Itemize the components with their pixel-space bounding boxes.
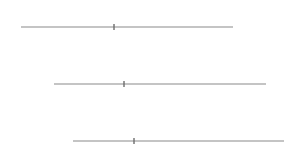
- diagram-canvas: [0, 0, 299, 159]
- number-line-1: [21, 24, 233, 30]
- number-line-3: [73, 138, 284, 144]
- number-line-2: [54, 81, 266, 87]
